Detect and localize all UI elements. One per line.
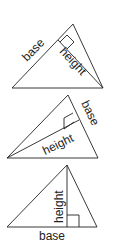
triangle-1: base height <box>12 24 103 88</box>
triangle-3-height-label: height <box>52 190 66 223</box>
triangle-2-right-angle-marker-top <box>64 113 73 118</box>
triangle-2: base height <box>7 95 102 158</box>
triangle-1-base-label: base <box>19 35 47 64</box>
triangle-3: height base <box>7 165 97 242</box>
triangle-2-height-label: height <box>40 130 76 157</box>
triangle-3-base-label: base <box>39 229 65 242</box>
triangle-3-right-angle-marker <box>67 215 79 227</box>
triangle-diagrams: base height base height height base <box>0 0 114 242</box>
